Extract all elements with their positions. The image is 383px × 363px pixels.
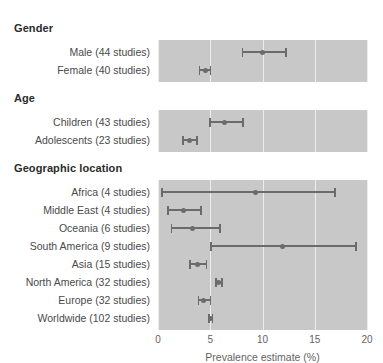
gridline-15 <box>315 110 316 152</box>
x-tick-label-10: 10 <box>248 334 278 345</box>
ci-cap-lower <box>210 242 212 251</box>
gridline-0 <box>158 40 159 82</box>
ci-cap-lower <box>167 206 169 215</box>
row-label: Middle East (4 studies) <box>0 204 150 216</box>
gridline-10 <box>263 180 264 330</box>
estimate-point <box>187 138 192 143</box>
plot-panel-1 <box>158 110 367 152</box>
gridline-10 <box>263 40 264 82</box>
gridline-20 <box>367 40 368 82</box>
x-tick-label-0: 0 <box>143 334 173 345</box>
row-label: Adolescents (23 studies) <box>0 134 150 146</box>
ci-cap-upper <box>355 242 357 251</box>
estimate-point <box>260 50 265 55</box>
estimate-point <box>181 208 186 213</box>
ci-cap-lower <box>199 66 201 75</box>
plot-panel-0 <box>158 40 367 82</box>
ci-cap-lower <box>209 118 211 127</box>
ci-cap-lower <box>198 296 200 305</box>
x-tick-label-5: 5 <box>195 334 225 345</box>
estimate-point <box>208 316 213 321</box>
ci-cap-upper <box>200 206 202 215</box>
x-tick-label-15: 15 <box>300 334 330 345</box>
gridline-20 <box>367 180 368 330</box>
row-label: Male (44 studies) <box>0 46 150 58</box>
ci-cap-upper <box>210 66 212 75</box>
row-label: Africa (4 studies) <box>0 186 150 198</box>
ci-cap-upper <box>334 188 336 197</box>
row-label: Children (43 studies) <box>0 116 150 128</box>
ci-cap-upper <box>221 278 223 287</box>
confidence-interval-line <box>161 191 336 193</box>
confidence-interval-line <box>171 227 221 229</box>
x-axis-title: Prevalence estimate (%) <box>158 351 367 363</box>
group-header-age: Age <box>14 92 35 104</box>
group-header-gender: Gender <box>14 22 53 34</box>
estimate-point <box>222 120 227 125</box>
x-tick-label-20: 20 <box>352 334 382 345</box>
estimate-point <box>280 244 285 249</box>
estimate-point <box>216 280 221 285</box>
ci-cap-lower <box>242 48 244 57</box>
gridline-0 <box>158 180 159 330</box>
estimate-point <box>190 226 195 231</box>
gridline-10 <box>263 110 264 152</box>
ci-cap-upper <box>196 136 198 145</box>
gridline-15 <box>315 180 316 330</box>
ci-cap-lower <box>189 260 191 269</box>
row-label: Female (40 studies) <box>0 64 150 76</box>
gridline-5 <box>210 110 211 152</box>
gridline-15 <box>315 40 316 82</box>
ci-cap-lower <box>171 224 173 233</box>
estimate-point <box>195 262 200 267</box>
ci-cap-upper <box>210 296 212 305</box>
ci-cap-upper <box>242 118 244 127</box>
gridline-20 <box>367 110 368 152</box>
gridline-5 <box>210 180 211 330</box>
plot-panel-2 <box>158 180 367 330</box>
row-label: North America (32 studies) <box>0 276 150 288</box>
ci-cap-upper <box>219 224 221 233</box>
gridline-5 <box>210 40 211 82</box>
group-header-geographic-location: Geographic location <box>14 162 122 174</box>
ci-cap-lower <box>182 136 184 145</box>
ci-cap-upper <box>285 48 287 57</box>
row-label: Europe (32 studies) <box>0 294 150 306</box>
estimate-point <box>203 68 208 73</box>
gridline-0 <box>158 110 159 152</box>
ci-cap-upper <box>206 260 208 269</box>
row-label: Worldwide (102 studies) <box>0 312 150 324</box>
row-label: Asia (15 studies) <box>0 258 150 270</box>
estimate-point <box>253 190 258 195</box>
row-label: South America (9 studies) <box>0 240 150 252</box>
ci-cap-lower <box>161 188 163 197</box>
row-label: Oceania (6 studies) <box>0 222 150 234</box>
